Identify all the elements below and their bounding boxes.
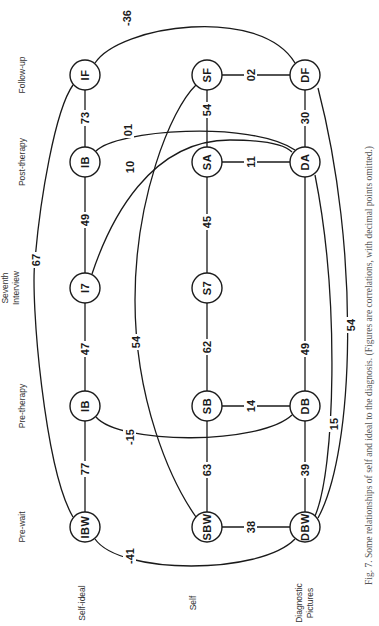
weight-i7-ibpost: 49 bbox=[79, 214, 91, 226]
node-ibw: IBW bbox=[70, 512, 100, 542]
svg-text:DBW: DBW bbox=[299, 513, 311, 541]
svg-text:I7: I7 bbox=[79, 283, 91, 293]
column-label-follow-up: Follow-up bbox=[17, 56, 27, 93]
row-label-self-ideal: Self-ideal bbox=[77, 585, 87, 621]
figure-caption: Fig. 7. Some relationships of self and i… bbox=[364, 146, 375, 585]
weight-ibpre-i7: 47 bbox=[79, 343, 91, 355]
column-labels: Pre-wait Pre-therapy Seventh Interview P… bbox=[0, 56, 27, 542]
weight-sb-db: 14 bbox=[245, 399, 257, 412]
svg-text:IF: IF bbox=[79, 70, 91, 81]
svg-text:IB: IB bbox=[79, 400, 91, 412]
weight-ibw-ibpre: 77 bbox=[79, 463, 91, 475]
column-label-pre-therapy: Pre-therapy bbox=[17, 383, 27, 428]
weight-sb-s7: 62 bbox=[201, 341, 213, 353]
weight-ibpost-da: 01 bbox=[122, 124, 134, 136]
svg-text:DF: DF bbox=[299, 67, 311, 83]
edge-ibw-if bbox=[34, 85, 73, 517]
svg-text:DB: DB bbox=[299, 398, 311, 415]
node-sa: SA bbox=[192, 147, 222, 177]
weight-ibpost-if: 73 bbox=[79, 112, 91, 124]
node-sbw: SBW bbox=[192, 512, 222, 542]
weight-ibw-dbw: -41 bbox=[124, 548, 136, 564]
weight-dbw-da: 15 bbox=[328, 418, 340, 430]
node-sb: SB bbox=[192, 391, 222, 421]
weight-dbw-df: 54 bbox=[345, 318, 357, 331]
row-label-diagnostic-line2: Pictures bbox=[305, 588, 315, 619]
weight-i7-da: 10 bbox=[124, 161, 136, 173]
node-dbw: DBW bbox=[290, 512, 320, 542]
node-i7: I7 bbox=[70, 273, 100, 303]
node-df: DF bbox=[290, 60, 320, 90]
node-ib-post: IB bbox=[70, 147, 100, 177]
node-s7: S7 bbox=[192, 273, 222, 303]
edge-dbw-da bbox=[315, 175, 332, 516]
column-label-seventh-line2: Interview bbox=[11, 270, 21, 305]
weight-ibw-if: 67 bbox=[30, 254, 42, 266]
weight-if-df: -36 bbox=[121, 10, 133, 26]
node-sf: SF bbox=[192, 60, 222, 90]
column-label-post-therapy: Post-therapy bbox=[17, 137, 27, 186]
weight-db-da: 49 bbox=[299, 343, 311, 355]
weight-s7-sa: 45 bbox=[201, 216, 213, 228]
edge-if-df bbox=[95, 27, 295, 63]
weight-sa-sf: 54 bbox=[201, 103, 213, 116]
column-label-seventh-line1: Seventh bbox=[0, 272, 10, 303]
svg-text:SBW: SBW bbox=[201, 513, 213, 540]
node-ib-pre: IB bbox=[70, 391, 100, 421]
row-label-diagnostic-line1: Diagnostic bbox=[294, 582, 304, 622]
row-labels: Self-ideal Self Diagnostic Pictures bbox=[77, 582, 315, 622]
row-label-self: Self bbox=[188, 595, 198, 610]
edge-sbw-sf bbox=[135, 85, 196, 517]
correlation-diagram: 73 49 47 77 54 45 62 63 30 49 39 02 11 1… bbox=[0, 0, 379, 626]
node-db: DB bbox=[290, 391, 320, 421]
svg-text:SF: SF bbox=[201, 67, 213, 82]
weight-da-df: 30 bbox=[299, 112, 311, 124]
svg-text:SB: SB bbox=[201, 398, 213, 414]
edge-dbw-df bbox=[318, 88, 348, 518]
weight-sbw-sf: 54 bbox=[130, 335, 142, 348]
svg-text:DA: DA bbox=[299, 154, 311, 171]
column-label-pre-wait: Pre-wait bbox=[17, 511, 27, 543]
node-if: IF bbox=[70, 60, 100, 90]
weight-sf-df: 02 bbox=[245, 69, 257, 81]
weight-sa-da: 11 bbox=[245, 156, 257, 168]
node-da: DA bbox=[290, 147, 320, 177]
weight-ibpre-db: -15 bbox=[124, 429, 136, 445]
svg-text:IB: IB bbox=[79, 156, 91, 168]
svg-text:S7: S7 bbox=[201, 281, 213, 295]
weight-dbw-db: 39 bbox=[299, 464, 311, 476]
weight-sbw-sb: 63 bbox=[201, 464, 213, 476]
nodes: IF IB I7 IB IBW SF SA S7 SB SBW DF DA DB… bbox=[70, 60, 320, 542]
svg-text:SA: SA bbox=[201, 154, 213, 170]
weight-sbw-dbw: 38 bbox=[245, 521, 257, 533]
svg-text:IBW: IBW bbox=[79, 515, 91, 538]
